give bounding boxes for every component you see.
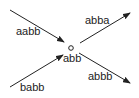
edge-label-aabb: aabb	[16, 25, 40, 37]
edge-label-abba: abba	[85, 14, 110, 26]
state-diagram: aabb babb abba abbb abb	[0, 0, 139, 98]
center-node-label: abb	[63, 52, 81, 64]
edge-label-abbb: abbb	[88, 70, 112, 82]
edge-label-babb: babb	[20, 81, 44, 93]
center-node	[69, 46, 74, 51]
